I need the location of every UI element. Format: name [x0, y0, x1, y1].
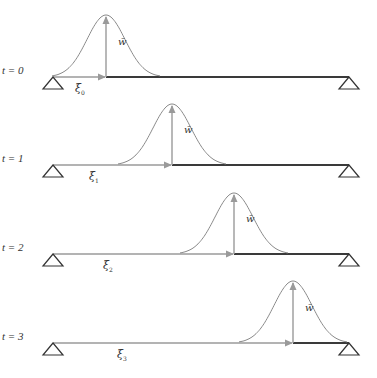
load-label: w̄ [246, 213, 255, 224]
position-subscript: 0 [81, 89, 85, 96]
right-roller-support-icon [339, 165, 359, 177]
panel-t3: t = 3w̄ξ3 [2, 281, 359, 362]
right-roller-support-icon [339, 343, 359, 355]
panel-t0: t = 0w̄ξ0 [2, 15, 359, 96]
right-roller-support-icon [339, 77, 359, 89]
panel-t2: t = 2w̄ξ2 [2, 193, 359, 273]
position-subscript: 1 [95, 177, 99, 184]
load-label: w̄ [184, 124, 193, 135]
left-pin-support-icon [43, 77, 63, 89]
right-roller-support-icon [339, 254, 359, 266]
time-label: t = 3 [2, 330, 24, 342]
panel-t1: t = 1w̄ξ1 [2, 104, 359, 184]
load-label: w̄ [305, 302, 314, 313]
left-pin-support-icon [43, 343, 63, 355]
moving-load-diagram: t = 0w̄ξ0t = 1w̄ξ1t = 2w̄ξ2t = 3w̄ξ3 [0, 0, 377, 378]
time-label: t = 2 [2, 241, 24, 253]
position-subscript: 3 [123, 355, 127, 362]
time-label: t = 1 [2, 152, 23, 164]
time-label: t = 0 [2, 64, 24, 76]
left-pin-support-icon [43, 165, 63, 177]
load-label: w̄ [118, 36, 127, 47]
left-pin-support-icon [43, 254, 63, 266]
position-subscript: 2 [109, 266, 113, 273]
